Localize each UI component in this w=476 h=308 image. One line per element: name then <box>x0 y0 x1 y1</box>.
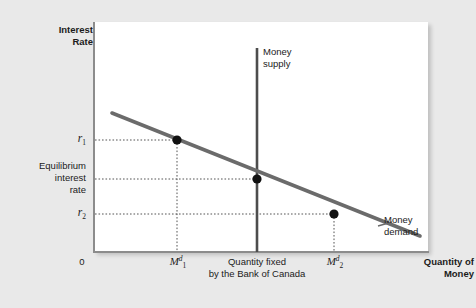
x-tick-label-quantity-fixed: Quantity fixedby the Bank of Canada <box>196 256 318 280</box>
x-axis-title: Quantity ofMoney <box>386 256 474 279</box>
x-tick-label-m1: Md1 <box>158 256 198 268</box>
marker-point-equilibrium <box>252 174 261 183</box>
y-axis-title-line2: Rate <box>72 36 93 47</box>
money-supply-annotation: Moneysupply <box>263 46 333 70</box>
equilibrium-line2: interest <box>55 172 86 183</box>
marker-point-r2-m2 <box>329 209 338 218</box>
money-demand-line <box>112 113 420 236</box>
m1-subscript: 1 <box>183 261 187 270</box>
m2-base: M <box>327 255 336 267</box>
money-demand-annotation: Moneydemand <box>384 214 460 238</box>
equilibrium-line1: Equilibrium <box>39 160 86 171</box>
y-tick-label-r2: r2 <box>50 207 86 219</box>
fixed-line1: Quantity fixed <box>228 256 286 267</box>
y-tick-label-equilibrium: Equilibriuminterestrate <box>2 160 86 196</box>
x-tick-label-m2: Md2 <box>315 256 355 268</box>
r2-subscript: 2 <box>82 212 86 221</box>
origin-label: 0 <box>76 256 88 268</box>
fixed-line2: by the Bank of Canada <box>209 268 306 279</box>
marker-point-r1-m1 <box>172 135 181 144</box>
m1-base: M <box>170 255 179 267</box>
chart-figure: InterestRate Quantity ofMoney 0 r1 r2 Eq… <box>0 0 476 308</box>
y-axis-title-line1: Interest <box>59 24 93 35</box>
x-axis-title-line1: Quantity of <box>424 256 474 267</box>
equilibrium-line3: rate <box>70 184 86 195</box>
money-supply-line2: supply <box>263 58 290 69</box>
m2-subscript: 2 <box>340 261 344 270</box>
money-demand-line1: Money <box>384 214 413 225</box>
y-axis-title: InterestRate <box>3 24 93 47</box>
money-demand-line2: demand <box>384 226 418 237</box>
y-tick-label-r1: r1 <box>50 133 86 145</box>
x-axis-title-line2: Money <box>444 268 474 279</box>
r1-subscript: 1 <box>82 138 86 147</box>
money-supply-line1: Money <box>263 46 292 57</box>
